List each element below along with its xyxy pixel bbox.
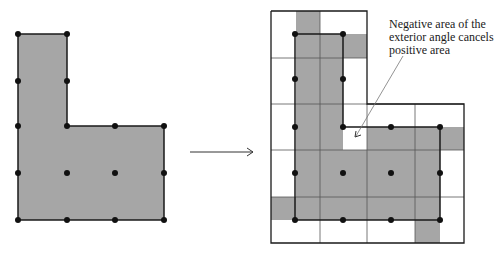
lattice-dot: [292, 76, 298, 82]
lattice-dot: [112, 170, 118, 176]
lattice-dot: [340, 76, 346, 82]
lattice-dot: [340, 31, 346, 37]
lattice-dot: [15, 78, 21, 84]
annotation-text: Negative area of the exterior angle canc…: [389, 18, 503, 57]
lattice-dot: [292, 217, 298, 223]
lattice-dot: [388, 124, 394, 130]
lattice-dot: [112, 217, 118, 223]
lattice-dot: [64, 170, 70, 176]
lattice-dot: [64, 217, 70, 223]
lattice-dot: [64, 31, 70, 37]
lattice-dot: [15, 31, 21, 37]
annotation-pointer: [355, 56, 403, 137]
lattice-dot: [292, 31, 298, 37]
lattice-dot: [64, 123, 70, 129]
transform-arrow: [190, 148, 253, 156]
left-l-polygon: [18, 34, 164, 220]
lattice-dot: [161, 123, 167, 129]
lattice-dot: [388, 170, 394, 176]
lattice-dot: [161, 170, 167, 176]
lattice-dot: [388, 217, 394, 223]
lattice-dot: [15, 170, 21, 176]
lattice-dot: [340, 217, 346, 223]
lattice-dot: [15, 217, 21, 223]
lattice-dot: [340, 170, 346, 176]
lattice-dot: [112, 123, 118, 129]
lattice-dot: [437, 217, 443, 223]
lattice-dot: [437, 170, 443, 176]
lattice-dot: [437, 124, 443, 130]
left-figure: [15, 31, 167, 223]
lattice-dot: [292, 170, 298, 176]
lattice-dot: [340, 124, 346, 130]
lattice-dot: [292, 124, 298, 130]
lattice-dot: [161, 217, 167, 223]
lattice-dot: [64, 78, 70, 84]
lattice-dot: [15, 123, 21, 129]
